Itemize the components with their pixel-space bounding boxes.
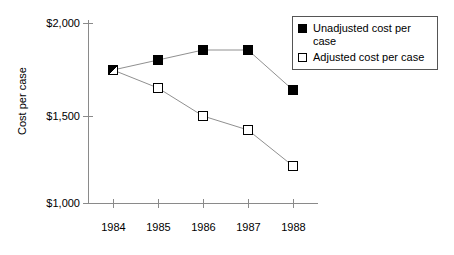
open-square-swatch-icon [298,53,307,62]
chart-legend: Unadjusted cost per case Adjusted cost p… [292,16,438,70]
data-point-unadjusted-1987 [244,46,253,55]
y-axis-title: Cost per case [16,46,28,156]
data-point-unadjusted-1986 [199,46,208,55]
legend-item-adjusted[interactable]: Adjusted cost per case [298,51,433,64]
y-tick-label-2000: $2,000 [34,17,80,29]
cost-per-case-line-chart: Cost per case $2,000 $1,500 $1,000 1984 … [0,0,454,255]
x-tick-label-1986: 1986 [181,221,226,233]
y-tick-label-1500: $1,500 [34,110,80,122]
data-point-adjusted-1987 [244,126,253,135]
series-line-unadjusted [113,50,293,90]
data-point-adjusted-1985 [154,84,163,93]
x-tick-label-1987: 1987 [226,221,271,233]
x-tick-label-1988: 1988 [271,221,316,233]
filled-square-swatch-icon [298,24,307,33]
data-point-adjusted-1988 [289,162,298,171]
data-point-unadjusted-1985 [154,56,163,65]
data-point-unadjusted-1988 [289,86,298,95]
legend-label-adjusted: Adjusted cost per case [313,51,424,64]
legend-label-unadjusted: Unadjusted cost per case [313,22,433,47]
legend-item-unadjusted[interactable]: Unadjusted cost per case [298,22,433,47]
x-tick-label-1984: 1984 [91,221,136,233]
data-point-adjusted-1986 [199,112,208,121]
y-tick-label-1000: $1,000 [34,197,80,209]
x-tick-label-1985: 1985 [136,221,181,233]
